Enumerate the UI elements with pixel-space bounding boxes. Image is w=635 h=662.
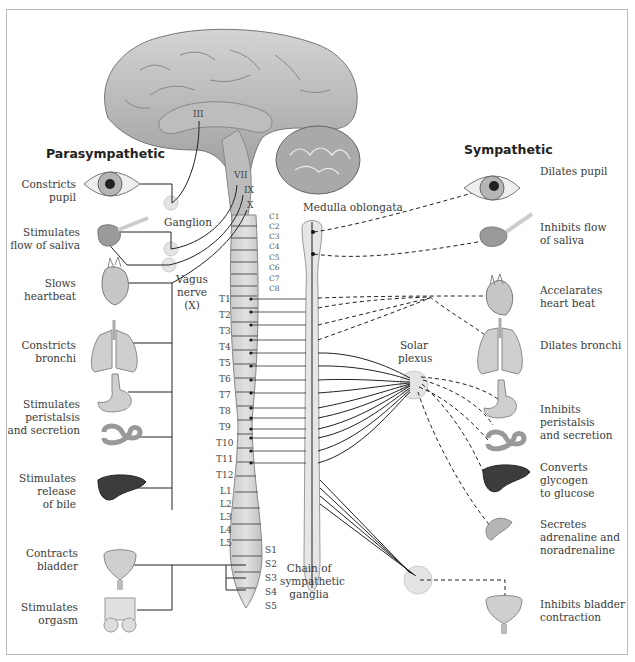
para-effect-orgasm: Stimulatesorgasm (4, 601, 78, 627)
symp-effect-peristalsis: Inhibits peristalsisand secretion (540, 403, 635, 442)
para-effect-bladder: Contractsbladder (4, 547, 78, 573)
segment-c3: C3 (269, 233, 280, 241)
symp-effect-bronchi: Dilates bronchi (540, 339, 621, 352)
symp-effect-pupil: Dilates pupil (540, 165, 607, 178)
para-effect-saliva: Stimulatesflow of saliva (4, 226, 80, 252)
right-eye-icon (464, 176, 520, 200)
parasympathetic-heading: Parasympathetic (46, 146, 165, 161)
segment-l2: L2 (220, 499, 232, 509)
left-liver-icon (98, 475, 146, 500)
brain-illustration (105, 29, 360, 220)
segment-t3: T3 (219, 326, 231, 336)
right-intestine-icon (488, 432, 524, 449)
segment-l5: L5 (220, 538, 232, 548)
ciliary-ganglion (164, 196, 178, 210)
symp-effect-glucose: Convertsglycogento glucose (540, 461, 595, 500)
medulla-oblongata-label: Medulla oblongata (303, 201, 403, 214)
segment-t2: T2 (219, 310, 231, 320)
segment-c4: C4 (269, 243, 280, 251)
symp-effect-heartbeat: Accelaratesheart beat (540, 284, 602, 310)
spinal-cord (230, 215, 262, 608)
sympathetic-heading: Sympathetic (464, 142, 553, 157)
right-heart-icon (486, 274, 512, 315)
symp-effect-saliva: Inhibits flowof saliva (540, 221, 606, 247)
segment-s2: S2 (265, 559, 277, 569)
right-liver-icon (483, 465, 530, 492)
left-stomach-icon (98, 374, 131, 412)
right-stomach-icon (484, 380, 516, 418)
segment-t4: T4 (219, 342, 231, 352)
segment-s1: S1 (265, 545, 277, 555)
solar-plexus-label: Solarplexus (398, 339, 430, 365)
segment-t9: T9 (219, 422, 231, 432)
cranial-nerve-x: X (247, 200, 253, 210)
left-bladder-icon (104, 550, 136, 590)
segment-l4: L4 (220, 525, 232, 535)
segment-c6: C6 (269, 264, 280, 272)
segment-l3: L3 (220, 512, 232, 522)
segment-l1: L1 (220, 486, 232, 496)
left-heart-icon (102, 257, 128, 305)
segment-t12: T12 (216, 470, 233, 480)
left-eye-icon (84, 172, 140, 196)
segment-c2: C2 (269, 223, 280, 231)
segment-t7: T7 (219, 390, 231, 400)
cranial-nerve-vii: VII (234, 170, 248, 180)
ganglia (162, 196, 432, 594)
para-effect-heartbeat: Slowsheartbeat (4, 277, 76, 303)
right-adrenal-icon (486, 518, 512, 540)
segment-c5: C5 (269, 254, 280, 262)
left-organs (84, 172, 148, 632)
right-bladder-icon (486, 596, 522, 635)
para-effect-bile: Stimulatesreleaseof bile (4, 472, 76, 511)
sympathetic-chain-label: Chain ofsympatheticganglia (280, 562, 338, 601)
segment-c7: C7 (269, 275, 280, 283)
segment-t11: T11 (216, 454, 233, 464)
symp-effect-bladder: Inhibits bladdercontraction (540, 598, 625, 624)
left-lungs-icon (91, 320, 137, 372)
segment-s3: S3 (265, 573, 277, 583)
para-effect-bronchi: Constrictsbronchi (4, 339, 76, 365)
segment-c8: C8 (269, 285, 280, 293)
ganglion-label: Ganglion (164, 216, 212, 229)
segment-t1: T1 (219, 294, 231, 304)
symp-effect-adrenaline: Secretesadrenaline andnoradrenaline (540, 518, 620, 557)
para-effect-pupil: Constrictspupil (4, 178, 76, 204)
right-salivary-gland-icon (480, 214, 532, 246)
cranial-nerve-ix: IX (244, 185, 254, 195)
left-intestine-icon (104, 426, 140, 443)
para-effect-peristalsis: Stimulatesperistalsisand secretion (4, 398, 80, 437)
segment-s5: S5 (265, 601, 277, 611)
segment-t10: T10 (216, 438, 233, 448)
segment-s4: S4 (265, 587, 277, 597)
segment-t5: T5 (219, 358, 231, 368)
vagus-nerve-label: Vagusnerve(X) (174, 273, 210, 312)
cranial-nerve-iii: III (193, 109, 204, 119)
sympathetic-pathways (314, 188, 505, 597)
left-genitals-icon (104, 598, 136, 632)
right-lungs-icon (478, 318, 523, 374)
segment-t8: T8 (219, 406, 231, 416)
segment-t6: T6 (219, 374, 231, 384)
segment-c1: C1 (269, 213, 280, 221)
